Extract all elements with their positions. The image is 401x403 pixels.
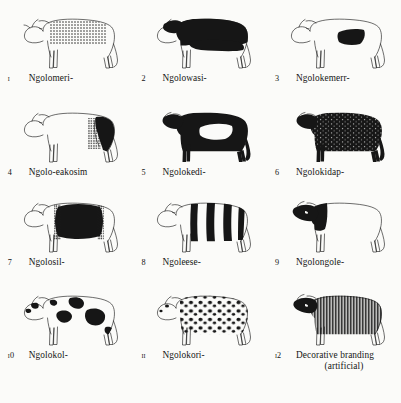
cow-icon — [141, 100, 259, 166]
figure-cell: ı0 Ngolokol- — [0, 279, 134, 403]
figure-label: Ngolowasi- — [162, 73, 264, 84]
figure-number: ı0 — [3, 350, 29, 361]
figure-caption: ı2 Decorative branding (artificial) — [270, 350, 398, 372]
figure-label: Ngolomeri- — [29, 73, 131, 84]
figure-number: 7 — [3, 257, 29, 268]
figure-cell: 2 Ngolowasi- — [134, 2, 268, 96]
figure-number: 8 — [136, 257, 162, 268]
figure-caption: ı0 Ngolokol- — [3, 350, 131, 361]
figure-label: Ngolongole- — [296, 257, 398, 268]
figure-caption: 9 Ngolongole- — [270, 257, 398, 268]
figure-cell: ı Ngolomeri- — [0, 2, 134, 96]
figure-number: 3 — [270, 73, 296, 84]
cow-icon — [275, 190, 393, 256]
cow-icon — [8, 283, 126, 349]
figure-number: ıı — [136, 350, 162, 361]
cow-icon — [275, 283, 393, 349]
cow-icon — [8, 100, 126, 166]
figure-number: 5 — [136, 167, 162, 178]
cow-icon — [275, 6, 393, 72]
cow-icon — [141, 283, 259, 349]
figure-cell: 6 Ngolokidap- — [267, 96, 401, 186]
figure-cell: 7 Ngolosil- — [0, 186, 134, 279]
figure-label: Ngolokidap- — [296, 167, 398, 178]
figure-label: Ngolo-eakosim — [29, 167, 131, 178]
figure-caption: 6 Ngolokidap- — [270, 167, 398, 178]
cow-icon — [141, 190, 259, 256]
figure-cell: 5 Ngolokedi- — [134, 96, 268, 186]
figure-label: Ngoleese- — [162, 257, 264, 268]
figure-cell: 8 Ngoleese- — [134, 186, 268, 279]
figure-caption: 8 Ngoleese- — [136, 257, 264, 268]
figure-grid: ı Ngolomeri- — [0, 0, 401, 403]
figure-label: Decorative branding (artificial) — [296, 350, 398, 372]
figure-number: 2 — [136, 73, 162, 84]
figure-label-sub: (artificial) — [296, 361, 398, 372]
figure-caption: 4 Ngolo-eakosim — [3, 167, 131, 178]
figure-label: Ngolokemerr- — [296, 73, 398, 84]
figure-cell: ıı Ngolokori- — [134, 279, 268, 403]
figure-number: 4 — [3, 167, 29, 178]
figure-cell: ı2 Decorative branding (artificial) — [267, 279, 401, 403]
figure-number: ı2 — [270, 350, 296, 361]
figure-number: ı — [3, 73, 29, 84]
figure-cell: 9 Ngolongole- — [267, 186, 401, 279]
figure-label: Ngolokedi- — [162, 167, 264, 178]
figure-label: Ngolokol- — [29, 350, 131, 361]
cow-icon — [8, 6, 126, 72]
figure-caption: 3 Ngolokemerr- — [270, 73, 398, 84]
figure-cell: 3 Ngolokemerr- — [267, 2, 401, 96]
figure-label: Ngolosil- — [29, 257, 131, 268]
figure-caption: ıı Ngolokori- — [136, 350, 264, 361]
figure-cell: 4 Ngolo-eakosim — [0, 96, 134, 186]
cattle-pattern-plate: ı Ngolomeri- — [0, 0, 401, 403]
figure-label: Ngolokori- — [162, 350, 264, 361]
figure-caption: ı Ngolomeri- — [3, 73, 131, 84]
cow-icon — [141, 6, 259, 72]
figure-caption: 2 Ngolowasi- — [136, 73, 264, 84]
figure-caption: 7 Ngolosil- — [3, 257, 131, 268]
figure-number: 6 — [270, 167, 296, 178]
cow-icon — [8, 190, 126, 256]
figure-number: 9 — [270, 257, 296, 268]
figure-caption: 5 Ngolokedi- — [136, 167, 264, 178]
cow-icon — [275, 100, 393, 166]
figure-label-main: Decorative branding — [296, 350, 374, 360]
